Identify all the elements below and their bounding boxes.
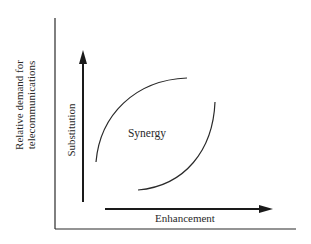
y-axis-label-line1: Relative demand for	[13, 60, 25, 150]
y-axis-label: Relative demand for telecommunications	[13, 60, 37, 150]
substitution-label: Substitution	[65, 103, 77, 157]
synergy-lower-arc	[138, 102, 215, 190]
telecom-demand-diagram: Relative demand for telecommunications S…	[0, 0, 311, 244]
synergy-upper-arc	[96, 78, 187, 162]
synergy-label: Synergy	[128, 127, 166, 140]
enhancement-arrow-head-icon	[259, 205, 273, 213]
substitution-arrow-head-icon	[79, 50, 87, 64]
enhancement-label: Enhancement	[155, 212, 215, 224]
substitution-label-group: Substitution	[65, 103, 77, 157]
y-axis-label-line2: telecommunications	[25, 61, 37, 150]
